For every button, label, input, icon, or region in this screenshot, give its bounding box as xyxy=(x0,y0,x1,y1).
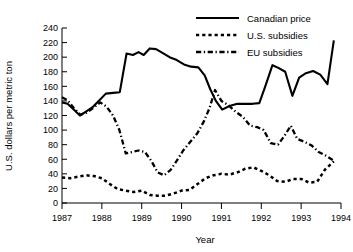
y-tick-label: 60 xyxy=(48,155,58,165)
y-axis-title: U.S. dollars per metric ton xyxy=(3,61,14,171)
legend-label-canadian-price: Canadian price xyxy=(247,13,311,24)
y-tick-label: 20 xyxy=(48,184,58,194)
y-tick-label: 0 xyxy=(53,198,58,208)
data-series-group xyxy=(62,40,334,195)
chart-legend: Canadian priceU.S. subsidiesEU subsidies xyxy=(196,13,311,58)
x-tick-label: 1989 xyxy=(132,213,152,223)
x-tick-label: 1994 xyxy=(331,213,351,223)
y-tick-label: 140 xyxy=(43,96,58,106)
series-line-eu-subsidies xyxy=(62,90,334,175)
y-tick-label: 220 xyxy=(43,38,58,48)
x-tick-label: 1992 xyxy=(251,213,271,223)
x-tick-label: 1988 xyxy=(92,213,112,223)
x-tick-label: 1987 xyxy=(52,213,72,223)
series-line-u-s-subsidies xyxy=(62,161,334,195)
y-tick-label: 120 xyxy=(43,111,58,121)
y-tick-label: 160 xyxy=(43,82,58,92)
x-tick-label: 1993 xyxy=(291,213,311,223)
y-axis-ticks: 020406080100120140160180200220240 xyxy=(43,23,67,208)
x-axis-ticks: 19871988198919901991199219931994 xyxy=(52,203,351,223)
x-tick-label: 1991 xyxy=(211,213,231,223)
legend-label-u-s-subsidies: U.S. subsidies xyxy=(247,30,308,41)
y-tick-label: 180 xyxy=(43,67,58,77)
y-tick-label: 200 xyxy=(43,52,58,62)
chart-figure: 020406080100120140160180200220240 198719… xyxy=(0,0,353,252)
legend-label-eu-subsidies: EU subsidies xyxy=(247,47,303,58)
x-tick-label: 1990 xyxy=(172,213,192,223)
y-tick-label: 100 xyxy=(43,125,58,135)
line-chart: 020406080100120140160180200220240 198719… xyxy=(0,0,353,252)
x-axis-title: Year xyxy=(195,234,214,245)
y-tick-label: 80 xyxy=(48,140,58,150)
y-tick-label: 40 xyxy=(48,169,58,179)
y-tick-label: 240 xyxy=(43,23,58,33)
